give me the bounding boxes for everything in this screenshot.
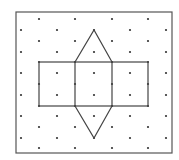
grid-dot — [165, 115, 167, 117]
grid-dot — [93, 94, 95, 96]
grid-dot — [93, 115, 95, 117]
net-top-triangle — [75, 30, 112, 62]
grid-dot — [56, 115, 58, 117]
grid-dot — [74, 147, 76, 149]
grid-dot — [147, 147, 149, 149]
grid-dot — [111, 147, 113, 149]
grid-dot — [129, 115, 131, 117]
grid-dot — [38, 126, 40, 128]
grid-dot — [129, 29, 131, 31]
grid-dot — [20, 115, 22, 117]
grid-dot — [129, 72, 131, 74]
grid-dot — [129, 94, 131, 96]
grid-dot — [56, 72, 58, 74]
net-bottom-triangle — [75, 106, 112, 138]
grid-dot — [20, 94, 22, 96]
isometric-dot-grid-figure — [0, 0, 179, 160]
grid-dot — [38, 147, 40, 149]
grid-dot — [147, 40, 149, 42]
grid-dot — [74, 40, 76, 42]
grid-dot — [165, 72, 167, 74]
grid-dot — [56, 29, 58, 31]
grid-dot — [74, 18, 76, 20]
grid-dot — [74, 126, 76, 128]
grid-dot — [38, 40, 40, 42]
grid-dot — [20, 137, 22, 139]
grid-dot — [129, 137, 131, 139]
grid-dot — [38, 18, 40, 20]
grid-dot — [147, 18, 149, 20]
grid-dot — [111, 126, 113, 128]
grid-dot — [56, 137, 58, 139]
grid-dot — [165, 51, 167, 53]
grid-dot — [147, 126, 149, 128]
grid-dot — [20, 72, 22, 74]
grid-dot — [111, 18, 113, 20]
grid-dot — [111, 40, 113, 42]
grid-dot — [20, 51, 22, 53]
grid-dot — [165, 29, 167, 31]
grid-dot — [93, 72, 95, 74]
dot-grid — [20, 18, 167, 149]
grid-dot — [165, 94, 167, 96]
net-rectangle — [39, 62, 148, 106]
grid-dot — [165, 137, 167, 139]
grid-dot — [129, 51, 131, 53]
net-shape — [39, 30, 148, 138]
grid-dot — [56, 51, 58, 53]
grid-dot — [93, 51, 95, 53]
grid-dot — [20, 29, 22, 31]
grid-dot — [56, 94, 58, 96]
